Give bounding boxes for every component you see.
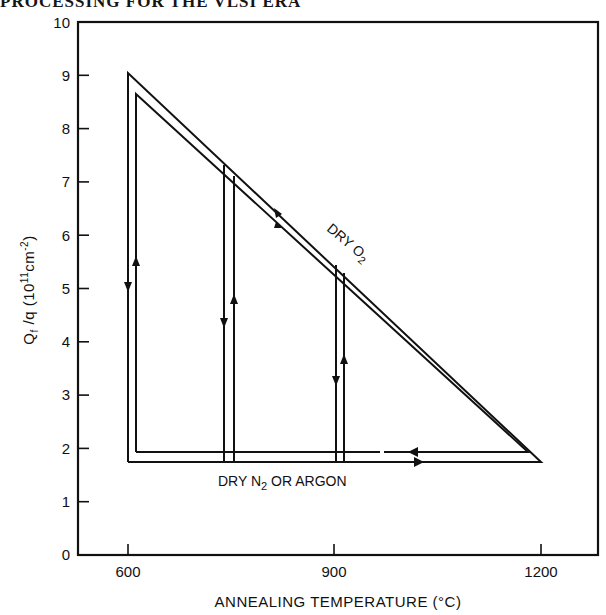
arrow-right-icon	[414, 457, 424, 467]
y-axis-title: Qf /q (1011cm-2)	[19, 235, 40, 344]
x-tick-label: 900	[321, 563, 346, 580]
y-tick-label: 2	[62, 440, 70, 457]
arrow-left-icon	[408, 447, 418, 457]
y-tick-label: 9	[62, 67, 70, 84]
y-tick-label: 6	[62, 227, 70, 244]
dry-n2-label: DRY N2 OR ARGON	[218, 473, 347, 492]
x-tick-label: 600	[115, 563, 140, 580]
y-tick-label: 10	[53, 14, 70, 31]
outer-cycle-line	[128, 73, 541, 462]
y-axis: 0 1 2 3 4 5 6 7 8 9 10	[53, 14, 89, 563]
y-tick-label: 5	[62, 280, 70, 297]
y-tick-label: 1	[62, 493, 70, 510]
dry-o2-label: DRY O2	[322, 220, 372, 267]
arrow-down-icon	[332, 376, 340, 386]
arrow-up-icon	[340, 354, 348, 364]
arrow-down-icon	[124, 282, 132, 292]
y-tick-label: 8	[62, 120, 70, 137]
arrows	[124, 208, 424, 467]
chart-svg: 0 1 2 3 4 5 6 7 8 9 10 Qf /q (1011cm-2) …	[0, 0, 606, 615]
arrow-up-icon	[230, 294, 238, 304]
inner-cycle-line	[136, 94, 528, 452]
y-tick-label: 7	[62, 173, 70, 190]
x-axis-title: ANNEALING TEMPERATURE (°C)	[215, 593, 462, 610]
plot-lines	[128, 73, 541, 462]
x-tick-label: 1200	[524, 563, 557, 580]
arrow-down-icon	[220, 318, 228, 328]
arrow-up-icon	[132, 256, 140, 266]
y-tick-label: 4	[62, 333, 70, 350]
y-tick-label: 3	[62, 386, 70, 403]
y-tick-label: 0	[62, 546, 70, 563]
line-gap	[380, 449, 384, 455]
x-axis: 600 900 1200	[115, 544, 557, 580]
